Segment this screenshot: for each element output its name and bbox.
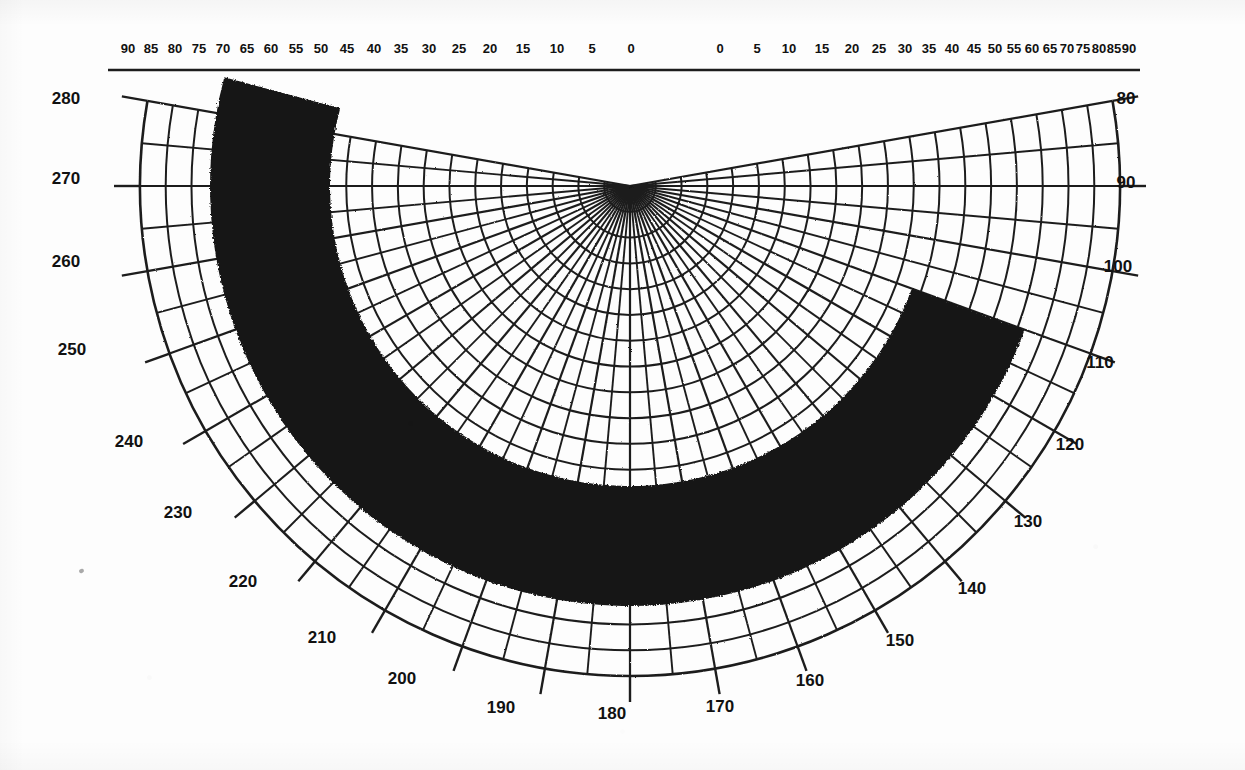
top-axis-tick-label: 0 — [627, 42, 634, 55]
polar-plot-svg — [0, 0, 1245, 770]
top-axis-tick-label: 10 — [782, 42, 796, 55]
top-axis-tick-label: 5 — [588, 42, 595, 55]
top-axis-tick-label: 40 — [945, 42, 959, 55]
top-axis-tick-label: 15 — [516, 42, 530, 55]
angular-tick-label: 200 — [388, 670, 416, 687]
top-axis-tick-label: 30 — [422, 42, 436, 55]
angular-tick-label: 210 — [308, 629, 336, 646]
top-axis-tick-label: 45 — [340, 42, 354, 55]
top-axis-tick-label: 75 — [1076, 42, 1090, 55]
top-axis-tick-label: 90 — [121, 42, 135, 55]
angular-tick-label: 170 — [706, 698, 734, 715]
angular-tick-label: 100 — [1104, 258, 1132, 275]
top-axis-tick-label: 65 — [240, 42, 254, 55]
top-axis-tick-label: 30 — [898, 42, 912, 55]
angular-tick-label: 110 — [1086, 354, 1113, 371]
top-axis-tick-label: 50 — [988, 42, 1002, 55]
angular-tick-label: 80 — [1117, 90, 1136, 107]
top-axis-tick-label: 90 — [1122, 42, 1136, 55]
top-axis-tick-label: 0 — [716, 42, 723, 55]
top-axis-tick-label: 25 — [872, 42, 886, 55]
top-axis-tick-label: 35 — [394, 42, 408, 55]
angular-tick-label: 90 — [1117, 174, 1136, 191]
top-axis-tick-label: 60 — [1025, 42, 1039, 55]
top-axis-tick-label: 75 — [192, 42, 206, 55]
angular-tick-label: 190 — [487, 699, 515, 716]
top-axis-tick-label: 80 — [168, 42, 182, 55]
angular-tick-label: 150 — [886, 632, 914, 649]
angular-tick-label: 250 — [58, 341, 86, 358]
scanned-polar-chart: 908580757065605550454035302520151050 051… — [0, 0, 1245, 770]
top-axis-tick-label: 60 — [264, 42, 278, 55]
angular-tick-label: 280 — [52, 90, 80, 107]
angular-tick-label: 120 — [1056, 436, 1084, 453]
top-axis-tick-label: 35 — [922, 42, 936, 55]
top-axis-tick-label: 10 — [550, 42, 564, 55]
top-axis-tick-label: 50 — [314, 42, 328, 55]
top-axis-tick-label: 40 — [367, 42, 381, 55]
top-axis-tick-label: 65 — [1043, 42, 1057, 55]
angular-tick-label: 160 — [796, 672, 824, 689]
angular-tick-label: 180 — [598, 705, 626, 722]
angular-tick-label: 230 — [164, 504, 192, 521]
angular-tick-label: 260 — [52, 253, 80, 270]
top-axis-tick-label: 55 — [289, 42, 303, 55]
top-axis-tick-label: 15 — [815, 42, 829, 55]
top-axis-tick-label: 5 — [753, 42, 760, 55]
top-axis-tick-label: 85 — [144, 42, 158, 55]
crescent-data-region — [210, 77, 1025, 606]
angular-tick-label: 270 — [52, 170, 80, 187]
angular-tick-label: 130 — [1014, 513, 1042, 530]
top-axis-tick-label: 20 — [845, 42, 859, 55]
data-region-group — [210, 77, 1025, 606]
angular-tick-label: 240 — [115, 433, 143, 450]
top-axis-tick-label: 70 — [1060, 42, 1074, 55]
angular-tick-label: 140 — [958, 580, 986, 597]
angular-tick-label: 220 — [229, 573, 257, 590]
top-axis-tick-label: 55 — [1007, 42, 1021, 55]
top-axis-tick-label: 70 — [216, 42, 230, 55]
top-axis-tick-label: 45 — [967, 42, 981, 55]
top-axis-tick-label: 20 — [483, 42, 497, 55]
top-axis-tick-label: 80 — [1092, 42, 1106, 55]
top-axis-tick-label: 25 — [452, 42, 466, 55]
top-axis-tick-label: 85 — [1107, 42, 1121, 55]
